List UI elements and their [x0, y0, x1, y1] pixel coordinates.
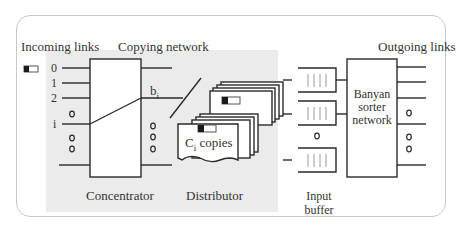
input-buffer-line1: Input: [302, 190, 336, 202]
concentrator-box: [90, 59, 141, 177]
copying-network-label: Copying network: [118, 40, 209, 53]
ci-base: C: [185, 135, 194, 150]
distributor-label: Distributor: [186, 189, 243, 202]
input-buffer-line2: buffer: [302, 204, 336, 216]
incoming-links-label: Incoming links: [21, 40, 99, 53]
input-index-0: 0: [51, 62, 57, 74]
b-i-label: bi: [150, 84, 159, 101]
banyan-line3: network: [347, 114, 397, 126]
b-i-sub: i: [157, 91, 160, 101]
outgoing-links-label: Outgoing links: [378, 40, 456, 53]
input-index-i: i: [53, 118, 56, 130]
input-index-1: 1: [51, 77, 57, 89]
ci-rest: copies: [196, 135, 232, 150]
input-buffers: [283, 68, 347, 172]
banyan-line2: sorter: [347, 101, 397, 113]
packet-icon: [24, 66, 38, 72]
banyan-label: Banyan sorter network: [347, 88, 397, 126]
input-index-2: 2: [51, 92, 57, 104]
concentrator-label: Concentrator: [86, 189, 154, 202]
input-buffer-label: Input buffer: [302, 190, 336, 216]
ci-copies-label: Ci copies: [185, 136, 233, 153]
banyan-line1: Banyan: [347, 88, 397, 100]
